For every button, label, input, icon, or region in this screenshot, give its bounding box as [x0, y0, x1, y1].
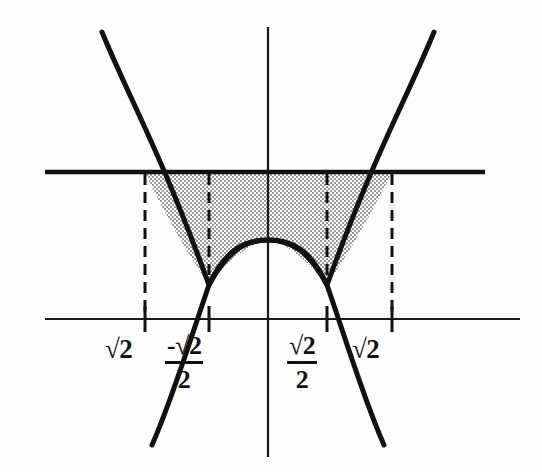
figure-root: √2 -√2 2 √2 2 √2 [0, 0, 542, 472]
tick-label-neg-sqrt2-over-2: -√2 2 [165, 333, 203, 393]
fraction-neg-sqrt2-over-2: -√2 2 [165, 333, 203, 393]
fraction-sqrt2-over-2: √2 2 [287, 333, 317, 393]
parabola-region-plot [0, 0, 542, 472]
tick-label-sqrt2-over-2: √2 2 [287, 333, 317, 393]
radical-sqrt2-left: √2 [105, 336, 132, 363]
fraction-bar [287, 361, 317, 364]
fraction-denominator: 2 [165, 366, 203, 393]
radical-sqrt2-right: √2 [352, 336, 379, 363]
tick-label-neg-sqrt2: √2 [105, 336, 132, 363]
fraction-numerator: -√2 [165, 333, 203, 360]
fraction-denominator: 2 [287, 366, 317, 393]
tick-label-sqrt2: √2 [352, 336, 379, 363]
fraction-numerator: √2 [287, 333, 317, 360]
fraction-bar [165, 361, 203, 364]
